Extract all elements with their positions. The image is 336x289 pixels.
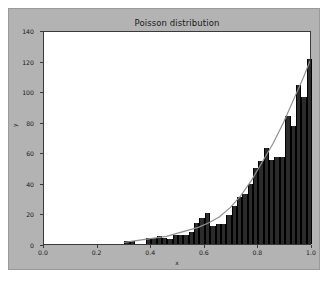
x-tick-label: 0.8	[252, 249, 262, 256]
x-tick-mark	[257, 245, 258, 248]
figure-panel: Poisson distribution y x 020406080100120…	[8, 8, 320, 270]
x-tick-mark	[43, 245, 44, 248]
x-tick-label: 0.0	[38, 249, 48, 256]
y-tick-label: 140	[22, 28, 34, 35]
x-tick-mark	[150, 245, 151, 248]
fit-curve	[44, 32, 310, 244]
y-axis-ticks: 020406080100120140	[9, 31, 40, 245]
y-tick-label: 80	[26, 119, 34, 126]
y-tick-label: 20	[26, 211, 34, 218]
y-tick-label: 40	[26, 180, 34, 187]
chart-title: Poisson distribution	[43, 18, 311, 28]
x-tick-label: 0.6	[199, 249, 209, 256]
y-tick-label: 60	[26, 150, 34, 157]
plot-area	[43, 31, 311, 245]
y-tick-label: 120	[22, 58, 34, 65]
x-axis-ticks: 0.00.20.40.60.81.0	[43, 245, 311, 261]
x-tick-mark	[97, 245, 98, 248]
x-tick-label: 0.4	[145, 249, 155, 256]
y-tick-label: 0	[30, 242, 34, 249]
y-tick-label: 100	[22, 89, 34, 96]
x-tick-mark	[311, 245, 312, 248]
x-tick-mark	[204, 245, 205, 248]
x-tick-label: 1.0	[306, 249, 316, 256]
x-tick-label: 0.2	[92, 249, 102, 256]
